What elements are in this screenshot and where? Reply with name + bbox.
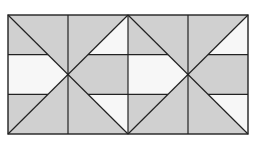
quilt-diagram [0, 0, 257, 142]
diagram-stage [0, 0, 257, 142]
